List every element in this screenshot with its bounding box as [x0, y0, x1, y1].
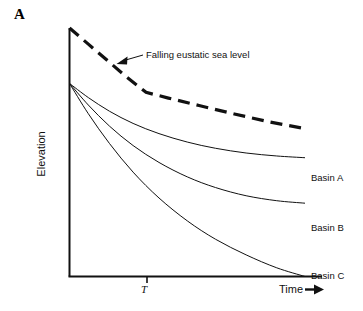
figure-container: A Elevation Time T Falli — [0, 0, 363, 311]
time-axis-arrow-group — [305, 285, 324, 295]
y-axis-label: Elevation — [35, 104, 47, 204]
sea-level-curve-group — [70, 28, 306, 129]
basin-curves-group — [70, 83, 306, 276]
axes-group — [69, 28, 323, 283]
falling-eustatic-sea-level-curve — [70, 28, 306, 129]
basin-a-curve — [70, 83, 306, 157]
plot-canvas — [0, 0, 363, 311]
sea-level-annotation-label: Falling eustatic sea level — [146, 49, 250, 60]
annotation-pointer-group — [117, 55, 144, 65]
series-label-basin-c: Basin C — [311, 270, 344, 281]
series-label-basin-b: Basin B — [311, 222, 344, 233]
basin-c-curve — [70, 83, 306, 276]
x-axis-label: Time — [279, 283, 303, 295]
arrow-down-left-icon — [117, 57, 128, 65]
series-label-basin-a: Basin A — [311, 172, 343, 183]
arrow-right-icon — [314, 285, 324, 295]
x-axis-tick-label-T: T — [141, 283, 147, 295]
